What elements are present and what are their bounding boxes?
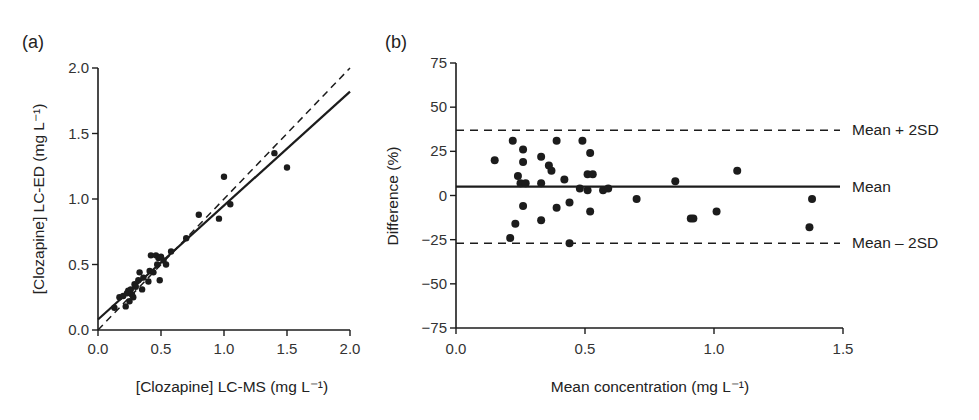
data-point — [491, 156, 499, 164]
data-point — [713, 207, 721, 215]
data-point — [586, 149, 594, 157]
data-point — [560, 176, 568, 184]
x-tick-label: 1.0 — [704, 340, 725, 357]
x-tick-label: 1.5 — [277, 340, 298, 357]
data-point — [589, 170, 597, 178]
panel-a-y-axis-label: [Clozapine] LC-ED (mg L⁻¹) — [30, 104, 47, 295]
panel-a: (a) 0.00.51.01.52.00.00.51.01.52.0 [Cloz… — [22, 32, 360, 395]
data-point — [514, 172, 522, 180]
data-point — [168, 248, 174, 254]
y-tick-label: −75 — [422, 319, 447, 336]
data-point — [604, 184, 612, 192]
data-point — [271, 150, 277, 156]
panel-b-x-axis-label: Mean concentration (mg L⁻¹) — [551, 378, 749, 395]
data-point — [519, 202, 527, 210]
data-point — [519, 158, 527, 166]
panel-b-reference-labels: Mean + 2SDMeanMean – 2SD — [852, 121, 939, 251]
data-point — [133, 284, 139, 290]
y-tick-label: 2.0 — [68, 59, 89, 76]
x-tick-label: 0.5 — [151, 340, 172, 357]
y-tick-label: 25 — [430, 142, 447, 159]
data-point — [183, 235, 189, 241]
data-point — [808, 195, 816, 203]
data-point — [733, 167, 741, 175]
data-point — [284, 164, 290, 170]
data-point — [537, 153, 545, 161]
data-point — [578, 137, 586, 145]
data-point — [227, 201, 233, 207]
x-tick-label: 1.0 — [214, 340, 235, 357]
data-point — [509, 137, 517, 145]
data-point — [519, 146, 527, 154]
data-point — [566, 239, 574, 247]
data-point — [111, 305, 117, 311]
data-point — [221, 174, 227, 180]
data-point — [123, 303, 129, 309]
data-point — [506, 234, 514, 242]
panel-b-label: (b) — [385, 32, 407, 52]
data-point — [576, 184, 584, 192]
data-point — [553, 204, 561, 212]
data-point — [584, 186, 592, 194]
data-point — [633, 195, 641, 203]
x-tick-label: 1.5 — [833, 340, 854, 357]
lower-limit-label: Mean – 2SD — [852, 234, 938, 251]
data-point — [566, 199, 574, 207]
y-tick-label: 1.0 — [68, 190, 89, 207]
data-point — [547, 167, 555, 175]
data-point — [511, 220, 519, 228]
y-tick-label: 75 — [430, 54, 447, 71]
data-point — [689, 214, 697, 222]
panel-a-label: (a) — [22, 32, 44, 52]
x-tick-label: 0.0 — [446, 340, 467, 357]
panel-b: (b) 7550250−25−50−750.00.51.01.5 Differe… — [384, 32, 939, 395]
upper-limit-label: Mean + 2SD — [852, 121, 939, 138]
panel-b-y-axis-label: Difference (%) — [384, 147, 401, 246]
data-point — [537, 179, 545, 187]
y-tick-label: −25 — [422, 231, 447, 248]
x-tick-label: 0.0 — [88, 340, 109, 357]
data-point — [130, 294, 136, 300]
data-point — [553, 137, 561, 145]
data-point — [537, 216, 545, 224]
y-tick-label: 50 — [430, 98, 447, 115]
y-tick-label: 0.5 — [68, 256, 89, 273]
panel-a-plot-area — [98, 68, 350, 330]
data-point — [216, 215, 222, 221]
data-point — [145, 278, 151, 284]
data-point — [671, 177, 679, 185]
y-tick-label: 1.5 — [68, 125, 89, 142]
data-point — [522, 179, 530, 187]
y-tick-label: 0 — [439, 187, 447, 204]
x-tick-label: 2.0 — [340, 340, 361, 357]
panel-a-x-axis-label: [Clozapine] LC-MS (mg L⁻¹) — [136, 378, 328, 395]
panel-b-plot-area — [456, 130, 840, 247]
mean-label: Mean — [852, 178, 891, 195]
identity-line — [98, 68, 350, 330]
data-point — [157, 277, 163, 283]
data-point — [163, 261, 169, 267]
data-point — [196, 212, 202, 218]
data-point — [154, 261, 160, 267]
data-point — [805, 223, 813, 231]
data-point — [136, 269, 142, 275]
panel-b-axes: 7550250−25−50−750.00.51.01.5 — [422, 54, 854, 357]
x-tick-label: 0.5 — [575, 340, 596, 357]
data-point — [140, 274, 146, 280]
data-point — [150, 269, 156, 275]
figure: (a) 0.00.51.01.52.00.00.51.01.52.0 [Cloz… — [0, 0, 979, 420]
data-point — [586, 207, 594, 215]
data-point — [139, 286, 145, 292]
y-tick-label: −50 — [422, 275, 447, 292]
y-tick-label: 0.0 — [68, 321, 89, 338]
